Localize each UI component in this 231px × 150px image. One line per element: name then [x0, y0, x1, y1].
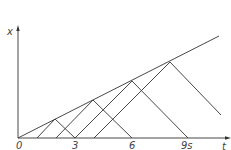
tick-label-9s: 9s: [181, 140, 193, 150]
signal-path-1: [37, 119, 75, 138]
main-trajectory-line: [18, 36, 219, 138]
x-axis-label: t: [222, 141, 227, 150]
tick-label-6: 6: [129, 140, 135, 150]
xt-diagram: x t 0 3 6 9s: [0, 0, 231, 150]
signal-path-3: [75, 81, 188, 138]
tick-label-3: 3: [72, 140, 78, 150]
y-axis-arrow-icon: [16, 25, 19, 31]
tick-label-0: 0: [16, 140, 22, 150]
y-axis-label: x: [6, 26, 13, 37]
x-axis-arrow-icon: [225, 136, 231, 139]
